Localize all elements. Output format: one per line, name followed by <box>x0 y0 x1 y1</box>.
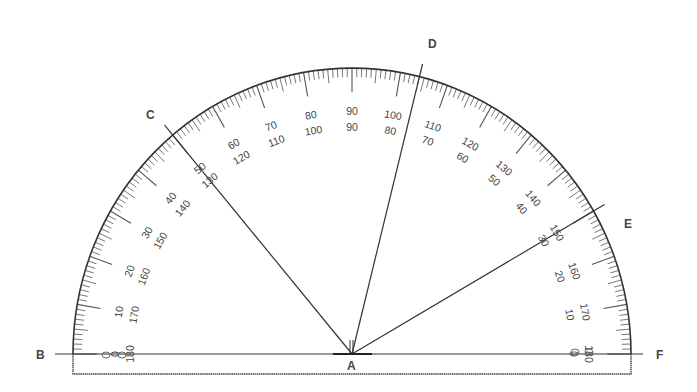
tick-mark <box>548 170 566 186</box>
tick-mark <box>261 84 264 93</box>
point-label-e: E <box>624 217 632 231</box>
tick-mark <box>145 163 152 169</box>
tick-mark <box>129 182 136 188</box>
outer-scale-label: 110 <box>423 117 443 134</box>
tick-mark <box>113 207 121 212</box>
inner-scale-label: 80 <box>384 123 398 137</box>
tick-mark <box>77 304 100 308</box>
tick-mark <box>289 75 291 84</box>
tick-mark <box>106 220 114 224</box>
tick-mark <box>135 174 142 180</box>
tick-mark <box>583 207 591 212</box>
tick-mark <box>108 215 116 219</box>
tick-mark <box>95 242 103 246</box>
inner-scale-label: 100 <box>304 123 323 138</box>
tick-mark <box>617 299 626 301</box>
tick-mark <box>604 252 612 255</box>
tick-mark <box>304 72 308 96</box>
tick-mark <box>602 247 610 250</box>
tick-mark <box>565 178 572 184</box>
protractor-diagram: 0180101702016030150401405013060120701108… <box>0 0 697 392</box>
tick-mark <box>280 78 284 92</box>
tick-mark <box>592 233 605 239</box>
point-label-b: B <box>36 348 45 362</box>
tick-mark <box>162 145 168 152</box>
tick-mark <box>84 275 93 278</box>
tick-mark <box>421 78 425 92</box>
tick-mark <box>208 109 213 117</box>
tick-mark <box>217 104 221 112</box>
tick-mark <box>609 266 617 269</box>
tick-mark <box>390 71 391 80</box>
tick-mark <box>92 252 100 255</box>
tick-mark <box>299 73 301 82</box>
tick-mark <box>313 71 314 80</box>
tick-mark <box>275 79 277 88</box>
tick-mark <box>413 75 415 84</box>
tick-mark <box>196 117 201 125</box>
tick-mark <box>462 93 466 101</box>
inner-scale-label: 170 <box>126 305 141 324</box>
tick-mark <box>318 70 319 79</box>
tick-mark <box>76 314 85 315</box>
tick-mark <box>141 166 148 172</box>
tick-mark <box>499 114 504 122</box>
tick-mark <box>103 224 111 228</box>
tick-mark <box>576 194 583 199</box>
tick-mark <box>243 91 246 99</box>
tick-mark <box>213 106 225 127</box>
tick-mark <box>158 148 164 155</box>
tick-mark <box>294 74 296 83</box>
tick-mark <box>385 70 386 79</box>
inner-scale-label: 90 <box>346 121 358 133</box>
tick-mark <box>75 319 84 320</box>
tick-mark <box>610 270 619 273</box>
tick-mark <box>458 91 461 99</box>
tick-mark <box>579 198 586 203</box>
outer-scale-label: 40 <box>162 189 179 206</box>
tick-mark <box>616 329 630 330</box>
tick-mark <box>503 117 508 125</box>
tick-mark <box>616 295 625 297</box>
inner-scale-label: 160 <box>135 266 152 287</box>
tick-mark <box>74 334 83 335</box>
tick-mark <box>148 159 155 165</box>
tick-mark <box>184 126 189 133</box>
tick-mark <box>408 74 410 83</box>
tick-mark <box>495 111 500 119</box>
ray-ac <box>165 125 352 354</box>
tick-mark <box>475 99 479 107</box>
tick-mark <box>257 85 265 108</box>
tick-mark <box>599 238 607 242</box>
tick-mark <box>483 104 487 112</box>
tick-mark <box>590 220 598 224</box>
point-label-a: A <box>347 359 356 373</box>
inner-scale-label: 120 <box>231 148 252 167</box>
outer-scale-label: 170 <box>578 302 593 321</box>
tick-mark <box>449 87 452 96</box>
tick-mark <box>607 261 615 264</box>
tick-mark <box>308 72 309 81</box>
tick-mark <box>553 163 560 169</box>
tick-mark <box>266 82 269 91</box>
inner-scale-label: 50 <box>486 172 503 189</box>
tick-mark <box>603 304 626 308</box>
tick-mark <box>612 275 621 278</box>
tick-mark <box>608 280 621 284</box>
tick-mark <box>540 148 546 155</box>
tick-mark <box>439 85 447 108</box>
tick-mark <box>75 324 84 325</box>
outer-scale-label: 20 <box>122 263 137 278</box>
tick-mark <box>614 285 623 287</box>
tick-mark <box>522 132 528 139</box>
tick-mark <box>200 114 205 122</box>
tick-mark <box>556 166 563 172</box>
tick-mark <box>570 186 577 191</box>
point-label-f: F <box>656 348 663 362</box>
tick-mark <box>518 129 523 136</box>
tick-mark <box>491 109 496 117</box>
tick-mark <box>533 141 539 148</box>
outer-scale-label: 30 <box>139 224 155 240</box>
point-label-d: D <box>428 37 437 51</box>
tick-mark <box>404 73 406 82</box>
